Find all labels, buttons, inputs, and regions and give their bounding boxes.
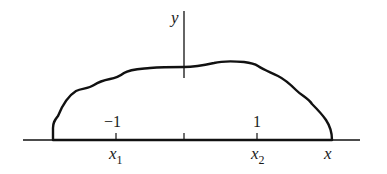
tick-label-one: 1 (253, 113, 261, 130)
x1-subscript: 1 (117, 153, 123, 167)
diagram-canvas: y −1 1 x1 x2 x (0, 0, 387, 174)
x-axis-label: x (323, 144, 332, 163)
x2-subscript: 2 (259, 153, 265, 167)
tick-label-minus-one: −1 (104, 113, 121, 130)
point-label-x1: x1 (108, 144, 123, 167)
point-label-x2: x2 (250, 144, 265, 167)
y-axis-label: y (169, 8, 179, 27)
curve (53, 61, 332, 140)
figure: y −1 1 x1 x2 x (0, 0, 387, 174)
